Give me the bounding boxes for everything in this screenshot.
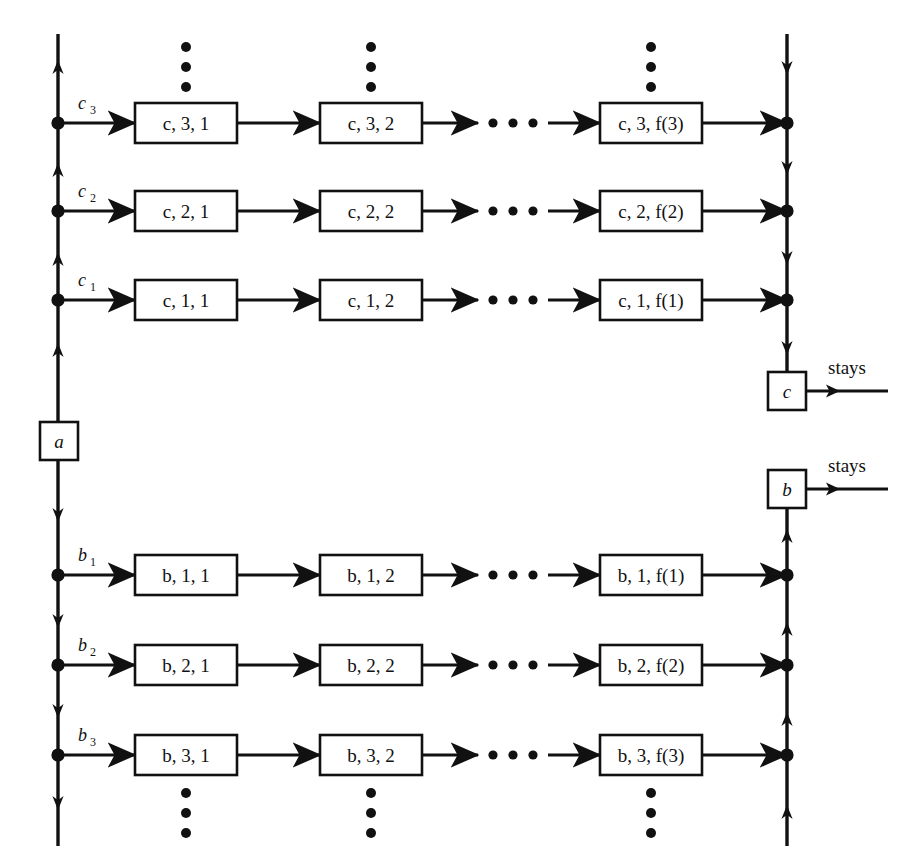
vertical-ellipsis-top [181,42,656,92]
edge-label-c3-subscript: 3 [90,103,96,117]
edge-label-c2: c [78,181,86,201]
edge-label-b3-subscript: 3 [90,735,96,749]
ellipsis-c1 [488,295,537,304]
edge-label-b1-subscript: 1 [90,555,96,569]
edge-label-c1: c [78,270,86,290]
stays-label-b: stays [828,455,866,476]
node-a-label: a [54,431,64,452]
edge-label-c3: c [78,93,86,113]
edge-label-c2-sub: 2 [90,191,96,205]
box-c1-1-label: c, 1, 1 [163,290,209,311]
box-c1-2-label: c, 1, 2 [348,290,394,311]
node-b-label: b [782,479,792,500]
edge-label-b2-sub: 2 [90,645,96,659]
diagram-canvas: c 3 c, 3, 1 c, 3, 2 c, 3, f(3) c 2 c, 2,… [0,0,918,864]
ellipsis-b1 [488,570,537,579]
box-b2-1-label: b, 2, 1 [162,655,210,676]
row-b2: b 2 b, 2, 1 b, 2, 2 b, 2, f(2) [51,635,793,685]
ellipsis-c2 [488,206,537,215]
edge-label-b3: b [78,725,87,745]
box-b2-2-label: b, 2, 2 [347,655,395,676]
right-rail [781,34,792,846]
box-c2-1-label: c, 2, 1 [163,201,209,222]
box-c2-2-label: c, 2, 2 [348,201,394,222]
node-a: a [40,422,78,460]
edge-label-c2-subscript: 2 [90,191,96,205]
vertical-ellipsis-bottom [181,788,656,838]
edge-label-b1: b [78,545,87,565]
box-b3-2-label: b, 3, 2 [347,745,395,766]
edge-label-b3-sub: 3 [90,735,96,749]
row-c3: c 3 c, 3, 1 c, 3, 2 c, 3, f(3) [51,93,793,143]
row-c1: c 1 c, 1, 1 c, 1, 2 c, 1, f(1) [51,270,793,320]
box-c3-1-label: c, 3, 1 [163,113,209,134]
edge-label-b2-subscript: 2 [90,645,96,659]
edge-label-c3-sub: 3 [90,103,96,117]
edge-label-b2: b [78,635,87,655]
box-b1-3-label: b, 1, f(1) [618,565,684,587]
box-c1-3-label: c, 1, f(1) [618,290,683,312]
node-c-label: c [783,381,792,402]
row-c2: c 2 c, 2, 1 c, 2, 2 c, 2, f(2) [51,181,793,231]
ellipsis-b3 [488,750,537,759]
box-b1-1-label: b, 1, 1 [162,565,210,586]
box-b3-1-label: b, 3, 1 [162,745,210,766]
petri-net-diagram: c 3 c, 3, 1 c, 3, 2 c, 3, f(3) c 2 c, 2,… [0,0,918,864]
ellipsis-b2 [488,660,537,669]
stays-label-c: stays [828,357,866,378]
edge-label-b1-sub: 1 [90,555,96,569]
box-b3-3-label: b, 3, f(3) [618,745,684,767]
box-c3-3-label: c, 3, f(3) [618,113,683,135]
node-b: b stays [768,455,888,508]
edge-label-c1-subscript: 1 [90,280,96,294]
box-c2-3-label: c, 2, f(2) [618,201,683,223]
box-c3-2-label: c, 3, 2 [348,113,394,134]
ellipsis-c3 [488,118,537,127]
edge-label-c1-sub: 1 [90,280,96,294]
box-b1-2-label: b, 1, 2 [347,565,395,586]
row-b3: b 3 b, 3, 1 b, 3, 2 b, 3, f(3) [51,725,793,775]
box-b2-3-label: b, 2, f(2) [618,655,684,677]
row-b1: b 1 b, 1, 1 b, 1, 2 b, 1, f(1) [51,545,793,595]
